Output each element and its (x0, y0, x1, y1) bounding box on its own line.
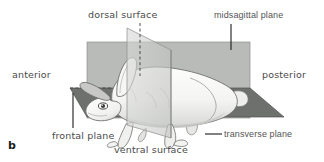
label-dorsal-surface: dorsal surface (88, 10, 157, 20)
anatomical-planes-figure: dorsal surface midsagittal plane anterio… (0, 0, 324, 162)
panel-letter: b (8, 140, 16, 151)
label-frontal-plane: frontal plane (52, 131, 114, 141)
label-anterior: anterior (12, 70, 51, 80)
label-posterior: posterior (262, 70, 306, 80)
label-midsagittal-plane: midsagittal plane (214, 11, 283, 20)
label-ventral-surface: ventral surface (114, 145, 188, 155)
label-transverse-plane: transverse plane (224, 130, 292, 139)
